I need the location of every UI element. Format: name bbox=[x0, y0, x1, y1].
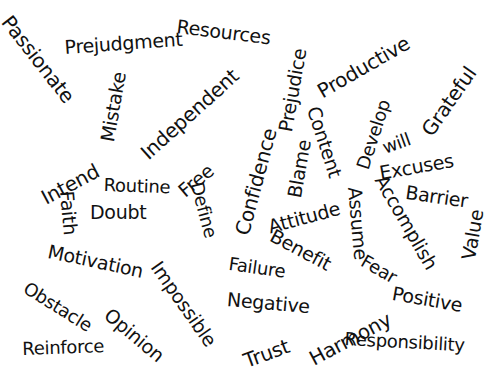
word-mistake: Mistake bbox=[98, 70, 129, 143]
word-productive: Productive bbox=[314, 33, 413, 102]
word-positive: Positive bbox=[391, 284, 464, 315]
word-negative: Negative bbox=[226, 290, 310, 316]
word-grateful: Grateful bbox=[418, 63, 480, 139]
word-value: Value bbox=[459, 208, 487, 261]
word-obstacle: Obstacle bbox=[20, 279, 95, 335]
word-prejudgment: Prejudgment bbox=[64, 30, 183, 57]
word-failure: Failure bbox=[227, 255, 286, 281]
word-define: Define bbox=[188, 180, 220, 240]
word-will: will bbox=[380, 130, 413, 157]
word-faith: Faith bbox=[57, 190, 80, 236]
word-responsibility: Responsibility bbox=[344, 330, 465, 354]
word-resources: Resources bbox=[176, 17, 272, 47]
word-blame: Blame bbox=[285, 138, 314, 199]
word-doubt: Doubt bbox=[90, 203, 146, 222]
word-motivation: Motivation bbox=[46, 242, 145, 281]
word-impossible: Impossible bbox=[147, 258, 219, 350]
word-opinion: Opinion bbox=[101, 305, 168, 365]
word-reinforce: Reinforce bbox=[22, 337, 104, 358]
word-cloud: PassionatePrejudgmentResourcesMistakeInd… bbox=[0, 0, 494, 383]
word-trust: Trust bbox=[241, 336, 292, 371]
word-passionate: Passionate bbox=[0, 12, 78, 106]
word-prejudice: Prejudice bbox=[276, 47, 309, 133]
word-routine: Routine bbox=[103, 176, 170, 196]
word-assume: Assume bbox=[345, 186, 370, 261]
word-barrier: Barrier bbox=[404, 183, 469, 211]
word-independent: Independent bbox=[137, 65, 242, 162]
